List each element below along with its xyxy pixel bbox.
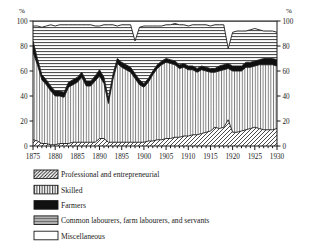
- right-y-axis-ticks: 020406080100: [277, 18, 294, 151]
- chart-legend: Professional and entrepreneurialSkilledF…: [34, 170, 209, 241]
- ytick-label-right: 40: [283, 93, 291, 101]
- xtick-label: 1915: [203, 153, 218, 161]
- ytick-label-right: 20: [283, 118, 291, 126]
- xtick-label: 1895: [115, 153, 130, 161]
- xtick-label: 1890: [92, 153, 107, 161]
- xtick-label: 1875: [26, 153, 41, 161]
- left-y-axis-ticks: 020406080100: [17, 18, 33, 151]
- legend-swatch-4: [34, 231, 58, 240]
- left-axis-percent-header: %: [19, 7, 25, 15]
- legend-label-2: Farmers: [61, 201, 86, 210]
- xtick-label: 1910: [181, 153, 196, 161]
- legend-label-3: Common labourers, farm labourers, and se…: [61, 216, 209, 225]
- ytick-label-left: 20: [20, 118, 28, 126]
- legend-label-1: Skilled: [61, 186, 83, 195]
- legend-swatch-3: [34, 216, 58, 225]
- right-axis-percent-header: %: [286, 7, 292, 15]
- ytick-label-left: 80: [20, 43, 28, 51]
- legend-swatch-0: [34, 170, 58, 179]
- xtick-label: 1900: [137, 153, 152, 161]
- xtick-label: 1885: [70, 153, 85, 161]
- xtick-label: 1880: [48, 153, 63, 161]
- ytick-label-left: 40: [20, 93, 28, 101]
- ytick-label-left: 60: [20, 68, 28, 76]
- ytick-label-right: 80: [283, 43, 291, 51]
- xtick-label: 1905: [159, 153, 174, 161]
- ytick-label-left: 0: [24, 143, 28, 151]
- xtick-label: 1930: [270, 153, 285, 161]
- legend-label-0: Professional and entrepreneurial: [61, 170, 159, 179]
- legend-label-4: Miscellaneous: [61, 232, 105, 241]
- ytick-label-right: 0: [283, 143, 287, 151]
- legend-swatch-2: [34, 201, 58, 210]
- ytick-label-right: 100: [283, 18, 294, 26]
- occupation-share-stacked-area-chart: % % 020406080100 020406080100 1875188018…: [0, 0, 311, 244]
- xtick-label: 1920: [225, 153, 240, 161]
- xtick-label: 1925: [248, 153, 263, 161]
- stacked-bands-group: [33, 21, 277, 146]
- legend-swatch-1: [34, 185, 58, 194]
- ytick-label-left: 100: [17, 18, 28, 26]
- x-axis-ticks: 1875188018851890189519001905191019151920…: [26, 146, 285, 161]
- chart-container: % % 020406080100 020406080100 1875188018…: [0, 0, 311, 244]
- ytick-label-right: 60: [283, 68, 291, 76]
